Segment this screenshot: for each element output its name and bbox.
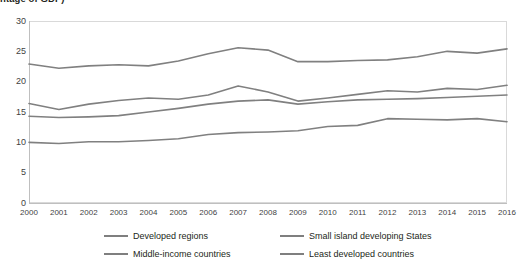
legend-swatch-icon [280, 235, 304, 237]
legend-item-middle-income-countries[interactable]: Middle-income countries [104, 249, 231, 259]
legend-label: Middle-income countries [133, 249, 231, 259]
series-line-least-developed-countries [29, 119, 507, 144]
series-line-developed-regions [29, 48, 507, 69]
x-tick-label: 2014 [432, 208, 462, 217]
x-tick-label: 2000 [14, 208, 44, 217]
legend-swatch-icon [104, 253, 128, 255]
y-tick-label: 10 [2, 138, 26, 147]
y-tick-label: 30 [2, 17, 26, 26]
line-chart: ntage of GDP) 051015202530 2000200120022… [0, 0, 530, 269]
y-tick-label: 15 [2, 108, 26, 117]
x-tick-label: 2010 [313, 208, 343, 217]
x-axis-line [29, 203, 507, 204]
legend-swatch-icon [280, 253, 304, 255]
x-tick-label: 2005 [163, 208, 193, 217]
y-tick-label: 25 [2, 47, 26, 56]
legend-label: Developed regions [133, 231, 208, 241]
x-tick-label: 2007 [223, 208, 253, 217]
x-tick-label: 2016 [492, 208, 522, 217]
x-tick-label: 2003 [104, 208, 134, 217]
x-tick-label: 2011 [343, 208, 373, 217]
x-tick-label: 2001 [44, 208, 74, 217]
y-tick-label: 0 [2, 199, 26, 208]
x-tick-label: 2015 [462, 208, 492, 217]
x-tick-label: 2002 [74, 208, 104, 217]
series-line-middle-income-countries [29, 95, 507, 117]
legend-item-least-developed-countries[interactable]: Least developed countries [280, 249, 414, 259]
x-tick-label: 2008 [253, 208, 283, 217]
legend-swatch-icon [104, 235, 128, 237]
x-tick-label: 2006 [193, 208, 223, 217]
legend-label: Small island developing States [309, 231, 432, 241]
x-tick-label: 2013 [402, 208, 432, 217]
x-tick-label: 2012 [373, 208, 403, 217]
x-tick-label: 2009 [283, 208, 313, 217]
y-tick-label: 5 [2, 168, 26, 177]
legend-item-small-island-developing-states[interactable]: Small island developing States [280, 231, 432, 241]
y-tick-label: 20 [2, 77, 26, 86]
series-lines [29, 21, 507, 203]
legend-item-developed-regions[interactable]: Developed regions [104, 231, 208, 241]
legend-label: Least developed countries [309, 249, 414, 259]
x-tick-label: 2004 [134, 208, 164, 217]
chart-legend: Developed regions Small island developin… [0, 227, 530, 269]
